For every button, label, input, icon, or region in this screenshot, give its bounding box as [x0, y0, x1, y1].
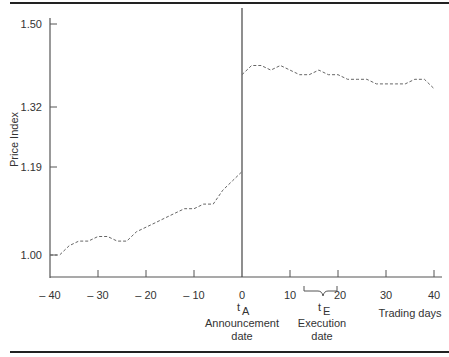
- price-series-post-announcement: [242, 66, 434, 89]
- y-tick-label: 1.19: [21, 161, 42, 173]
- price-series-pre-announcement: [50, 172, 242, 255]
- x-axis-label: Trading days: [378, 307, 442, 319]
- x-tick-label: 0: [239, 289, 245, 301]
- x-tick-label: – 40: [39, 289, 60, 301]
- exec-line2: date: [311, 330, 332, 342]
- x-ticks: [98, 270, 434, 277]
- announce-t: t: [237, 301, 240, 313]
- y-tick-labels: 1.50 1.32 1.19 1.00: [21, 18, 42, 261]
- chart-canvas: 1.50 1.32 1.19 1.00 Price Index – 40 – 3…: [0, 0, 449, 357]
- x-tick-label: 10: [284, 289, 296, 301]
- execution-brace: [304, 286, 337, 296]
- execution-annotation: t E Execution date: [298, 301, 346, 342]
- exec-t: t: [318, 301, 321, 313]
- x-tick-labels: – 40 – 30 – 20 – 10 0 10 20 30 40: [39, 289, 440, 301]
- x-tick-label: – 20: [135, 289, 156, 301]
- announce-sub: A: [242, 305, 250, 317]
- exec-line1: Execution: [298, 317, 346, 329]
- announce-line2: date: [231, 330, 252, 342]
- y-ticks: [50, 24, 57, 255]
- x-tick-label: 30: [380, 289, 392, 301]
- x-tick-label: – 10: [183, 289, 204, 301]
- announcement-annotation: t A Announcement date: [205, 301, 279, 342]
- x-tick-label: – 30: [87, 289, 108, 301]
- y-axis-label: Price Index: [8, 111, 20, 167]
- exec-sub: E: [323, 305, 330, 317]
- x-tick-label: 40: [428, 289, 440, 301]
- announce-line1: Announcement: [205, 317, 279, 329]
- y-tick-label: 1.32: [21, 101, 42, 113]
- y-tick-label: 1.00: [21, 249, 42, 261]
- y-tick-label: 1.50: [21, 18, 42, 30]
